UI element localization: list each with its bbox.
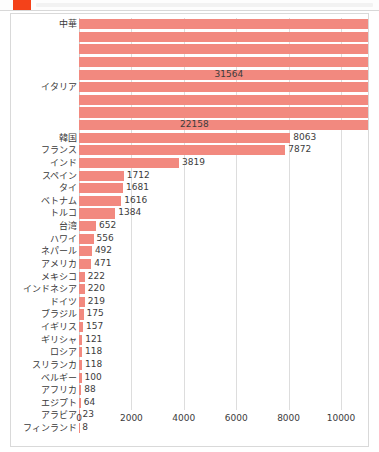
bar-fill (79, 158, 179, 168)
bar-value-label: 652 (96, 220, 116, 230)
category-label: エジプト (0, 397, 77, 410)
bar-row: ブラジル175 (11, 308, 368, 321)
category-label: イタリア (0, 81, 77, 94)
category-label: スペイン (0, 170, 77, 183)
bar-row: ハワイ556 (11, 233, 368, 246)
plot-area: 中華31564イタリア22158韓国8063フランス7872インド3819スペイ… (11, 14, 368, 446)
bar-fill (79, 145, 285, 155)
bar-value-label: 31564 (212, 69, 244, 79)
bar-value-label: 64 (81, 397, 95, 407)
bar (79, 57, 368, 67)
bar-row: ベトナム1616 (11, 195, 368, 208)
bar (79, 208, 115, 218)
titlebar-placeholder-strip (36, 3, 373, 7)
bar (79, 158, 179, 168)
bar-row: メキシコ222 (11, 271, 368, 284)
category-label: ギリシャ (0, 334, 77, 347)
category-label: タイ (0, 182, 77, 195)
category-label: ブラジル (0, 308, 77, 321)
bar-row: ドイツ219 (11, 296, 368, 309)
bar-value-label: 1616 (121, 195, 147, 205)
bar-fill (79, 95, 368, 105)
bar-fill (79, 171, 124, 181)
bar-row (11, 106, 368, 119)
bar-fill (79, 208, 115, 218)
bar (79, 82, 368, 92)
bar-value-label: 118 (82, 346, 102, 356)
bar-row: ロシア118 (11, 346, 368, 359)
bar-row (11, 56, 368, 69)
category-label: 中華 (0, 18, 77, 31)
category-label: ベルギー (0, 372, 77, 385)
bar-value-label: 8063 (290, 132, 316, 142)
bar-row: エジプト64 (11, 397, 368, 410)
bar-row: イギリス157 (11, 321, 368, 334)
bar-row: タイ1681 (11, 182, 368, 195)
bar-value-label: 556 (94, 233, 114, 243)
category-label: アフリカ (0, 384, 77, 397)
bar-row: トルコ1384 (11, 207, 368, 220)
x-axis: 0200040006000800010000 (11, 413, 368, 429)
bar (79, 32, 368, 42)
bar-fill (79, 57, 368, 67)
bar-value-label: 1712 (124, 170, 150, 180)
x-tick-label: 6000 (225, 413, 248, 423)
bar-row (11, 31, 368, 44)
app-square-icon[interactable] (13, 0, 31, 10)
category-label: インドネシア (0, 283, 77, 296)
bar-row: 31564 (11, 69, 368, 82)
category-label: 台湾 (0, 220, 77, 233)
category-label: 韓国 (0, 132, 77, 145)
bar-fill (79, 107, 368, 117)
bar-row: スリランカ118 (11, 359, 368, 372)
category-label: メキシコ (0, 271, 77, 284)
bar-value-label: 492 (92, 245, 112, 255)
bar-value-label: 471 (91, 258, 111, 268)
bar-fill (79, 196, 121, 206)
bar-fill (79, 234, 94, 244)
bar-fill (79, 183, 123, 193)
bar-value-label: 100 (82, 372, 102, 382)
bar (79, 221, 96, 231)
bar-row: インドネシア220 (11, 283, 368, 296)
bar-row (11, 43, 368, 56)
bar (79, 145, 285, 155)
bar-row: フランス7872 (11, 144, 368, 157)
category-label: ベトナム (0, 195, 77, 208)
chart-screenshot: 中華31564イタリア22158韓国8063フランス7872インド3819スペイ… (0, 0, 379, 452)
bar-value-label: 222 (85, 271, 105, 281)
bar-value-label: 1681 (123, 182, 149, 192)
bar (79, 133, 290, 143)
bar (79, 95, 368, 105)
bar-row: アメリカ471 (11, 258, 368, 271)
bar (79, 196, 121, 206)
category-label: ドイツ (0, 296, 77, 309)
bar-value-label: 121 (82, 334, 102, 344)
x-tick-label: 2000 (120, 413, 143, 423)
category-label: ロシア (0, 346, 77, 359)
bar-row: 韓国8063 (11, 132, 368, 145)
chart-card: 中華31564イタリア22158韓国8063フランス7872インド3819スペイ… (10, 13, 369, 447)
category-label: スリランカ (0, 359, 77, 372)
bar-value-label: 1384 (115, 207, 141, 217)
category-label: インド (0, 157, 77, 170)
bar-row: アフリカ88 (11, 384, 368, 397)
bar-fill (79, 120, 368, 130)
category-label: フランス (0, 144, 77, 157)
bar-fill (79, 133, 290, 143)
bar-row: インド3819 (11, 157, 368, 170)
bar-value-label: 7872 (285, 144, 311, 154)
bar (79, 44, 368, 54)
bar-row: ネパール492 (11, 245, 368, 258)
category-label: ネパール (0, 245, 77, 258)
bar-fill (79, 44, 368, 54)
bar-fill (79, 82, 368, 92)
bar-fill (79, 32, 368, 42)
x-tick-label: 10000 (327, 413, 356, 423)
bar-value-label: 219 (85, 296, 105, 306)
category-label: ハワイ (0, 233, 77, 246)
bar-row: 22158 (11, 119, 368, 132)
bar-value-label: 88 (81, 384, 95, 394)
x-tick-label: 8000 (277, 413, 300, 423)
bar (79, 107, 368, 117)
